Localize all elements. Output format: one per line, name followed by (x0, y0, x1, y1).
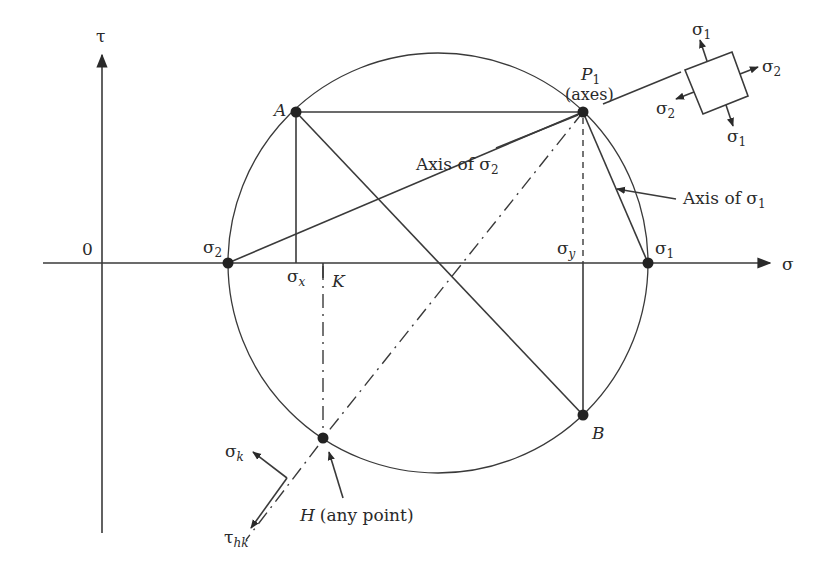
origin-label: 0 (82, 239, 93, 259)
label-sigma-k: σk (225, 441, 244, 464)
point-A (291, 107, 302, 118)
label-sigma1-point: σ1 (655, 238, 674, 261)
H-pointer-arrow (329, 452, 343, 498)
label-sigma2-point: σ2 (203, 237, 222, 260)
arrow-sigma2-right (740, 67, 758, 74)
arrow-sigma1-top (700, 40, 707, 61)
point-H (318, 433, 329, 444)
axis-of-sigma1-pointer-arrow (617, 189, 676, 199)
label-sigma-y: σy (557, 238, 576, 261)
element-leader-line (603, 72, 681, 104)
label-sigma-x: σx (287, 266, 306, 289)
inset-sigma1-top: σ1 (692, 19, 711, 42)
inset-sigma2-right: σ2 (762, 56, 781, 79)
sigma-axis-label: σ (782, 254, 794, 274)
inset-sigma2-left: σ2 (656, 98, 675, 121)
point-B (578, 410, 589, 421)
point-P1 (578, 107, 589, 118)
label-B: B (591, 423, 605, 443)
coordinate-axes (43, 55, 770, 533)
point-sigma1 (643, 258, 654, 269)
arrow-sigma2-left (676, 92, 694, 99)
mohr-circle-diagram: τ σ 0 A B P1 (axes) σ2 σ1 σx σy K H(any … (0, 0, 813, 569)
arrow-sigma-k (253, 452, 287, 478)
label-A: A (272, 100, 286, 120)
principal-element-inset: σ1 σ2 σ2 σ1 (603, 19, 781, 149)
plane-stress-inset: σk τhk (224, 441, 318, 550)
label-H: H(any point) (299, 505, 414, 525)
annotation-axis-of-sigma1: Axis of σ1 (682, 188, 766, 211)
arrow-tau-hk (251, 478, 287, 528)
annotation-axis-of-sigma2: Axis of σ2 (415, 154, 499, 177)
label-P1: P1 (580, 64, 600, 87)
plane-trace-dashdot (246, 446, 318, 540)
label-P1-note: (axes) (565, 85, 614, 104)
arrow-sigma1-bottom (726, 105, 733, 126)
element-square (685, 52, 748, 114)
inset-sigma1-bottom: σ1 (727, 126, 746, 149)
point-sigma2 (223, 258, 234, 269)
axis-of-sigma1-line (583, 112, 648, 263)
tau-axis-label: τ (96, 26, 105, 46)
label-tau-hk: τhk (224, 527, 248, 550)
label-K: K (331, 271, 346, 291)
axis-of-sigma2-leader (496, 115, 578, 148)
